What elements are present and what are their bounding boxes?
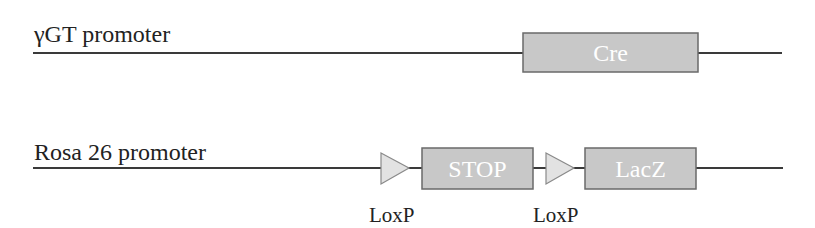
lacz-label: LacZ <box>615 156 666 182</box>
lacz-box: LacZ <box>585 148 696 189</box>
stop-box: STOP <box>422 148 533 189</box>
loxp-label-1: LoxP <box>369 205 415 226</box>
loxp-triangle-1 <box>381 153 409 184</box>
loxp-label-2: LoxP <box>533 205 579 226</box>
loxp-triangle-2 <box>546 153 574 184</box>
stop-label: STOP <box>448 156 506 182</box>
ygt-promoter-label: γGT promoter <box>34 22 170 46</box>
gene-construct-diagram: Cre STOP LacZ γGT promoter Rosa 26 promo… <box>0 0 815 228</box>
rosa26-promoter-label: Rosa 26 promoter <box>34 140 206 164</box>
cre-box: Cre <box>523 33 698 72</box>
cre-label: Cre <box>593 40 628 66</box>
